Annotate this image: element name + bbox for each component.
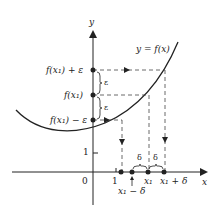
delta-label-left: δ	[137, 154, 142, 162]
epsilon-brace-upper	[97, 72, 102, 94]
delta-brace-left	[133, 164, 147, 169]
x-axis-arrow-icon	[200, 168, 208, 176]
continuity-diagram: y x 0 1 1 y = f(x) f(x₁) + ε f(x₁) f(x₁)…	[0, 0, 212, 214]
y-axis-arrow-icon	[89, 30, 97, 38]
epsilon-label-lower: ε	[104, 104, 108, 112]
x-tick-label: 1	[112, 177, 118, 186]
point-x1-plus-delta	[162, 170, 167, 175]
arrow-up-icon	[130, 176, 134, 180]
x-axis-label: x	[202, 178, 207, 187]
label-x1-plus-delta: x₁ + δ	[160, 177, 187, 186]
y-tick-label: 1	[83, 148, 89, 157]
point-x1	[146, 170, 151, 175]
point-middle	[91, 93, 96, 98]
arrow-down-icon	[119, 139, 125, 145]
arrow-down-icon	[162, 137, 168, 143]
label-x1-minus-delta: x₁ − δ	[118, 187, 145, 196]
y-axis-label: y	[89, 18, 94, 27]
function-curve	[16, 42, 178, 131]
epsilon-brace-lower	[97, 97, 102, 119]
delta-brace-right	[149, 164, 163, 169]
curve-label: y = f(x)	[136, 45, 170, 54]
point-x-left-bound	[119, 170, 124, 175]
point-x1-minus-delta	[130, 170, 135, 175]
label-f-plus-epsilon: f(x₁) + ε	[46, 66, 83, 75]
label-f-minus-epsilon: f(x₁) − ε	[50, 116, 87, 125]
label-f-x1: f(x₁)	[64, 91, 83, 100]
point-lower	[91, 118, 96, 123]
delta-label-right: δ	[153, 154, 158, 162]
arrow-right-icon	[124, 67, 130, 73]
origin-label: 0	[82, 177, 88, 186]
label-x1: x₁	[144, 177, 153, 186]
epsilon-label-upper: ε	[104, 79, 108, 87]
point-upper	[91, 68, 96, 73]
